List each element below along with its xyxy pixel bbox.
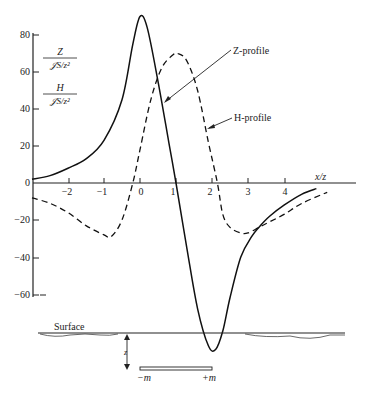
x-ticks: −2 −1 0 1 2 3 4: [62, 178, 288, 197]
surface-schematic: Surface z −m +m: [38, 321, 345, 383]
y-tick-label: 0: [25, 177, 30, 188]
magnet-bar: [140, 367, 212, 370]
svg-text:Z: Z: [57, 46, 63, 57]
magnetic-profile-chart: 80 60 40 20 0 −20 −40 −60 −2 −1 0 1 2 3 …: [0, 0, 371, 402]
y-label-h: H 𝒥S/z²: [43, 82, 77, 106]
pos-pole-label: +m: [202, 372, 216, 383]
h-profile-curve: [32, 53, 327, 238]
x-tick-label: −1: [97, 186, 108, 197]
neg-pole-label: −m: [137, 372, 151, 383]
svg-text:𝒥S/z²: 𝒥S/z²: [49, 60, 70, 70]
y-tick-label: 20: [20, 140, 30, 151]
h-profile-annotation: H-profile: [207, 112, 272, 129]
y-label-z: Z 𝒥S/z²: [43, 46, 77, 70]
svg-text:H-profile: H-profile: [234, 112, 272, 123]
x-tick-label: 0: [139, 186, 144, 197]
x-tick-label: 2: [208, 186, 213, 197]
y-tick-label: 40: [20, 103, 30, 114]
x-tick-label: 1: [171, 186, 176, 197]
x-tick-label: −2: [62, 186, 73, 197]
y-tick-label: 80: [20, 29, 30, 40]
svg-text:Z-profile: Z-profile: [233, 45, 270, 56]
y-tick-label: −20: [14, 214, 30, 225]
svg-text:H: H: [55, 82, 64, 93]
x-tick-label: 4: [283, 186, 288, 197]
y-ticks: 80 60 40 20 0 −20 −40 −60: [14, 29, 46, 300]
surface-label: Surface: [54, 321, 85, 332]
svg-text:𝒥S/z²: 𝒥S/z²: [49, 96, 70, 106]
x-tick-label: 3: [246, 186, 251, 197]
x-axis-label: x/z: [314, 171, 326, 182]
y-tick-label: −40: [14, 252, 30, 263]
y-tick-label: 60: [20, 66, 30, 77]
y-tick-label: −60: [14, 289, 30, 300]
